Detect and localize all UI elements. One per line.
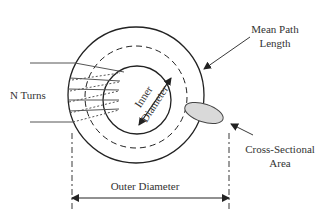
cross-section-label-1: Cross-Sectional [245, 143, 315, 155]
outer-diameter-label: Outer Diameter [111, 180, 180, 192]
cross-section-pointer [231, 124, 253, 135]
mean-path-label-2: Length [259, 37, 291, 49]
mean-path-pointer [204, 37, 250, 69]
cross-section-label-2: Area [269, 157, 290, 169]
toroid-diagram: Inner Diameter Mean Path Length Cross-Se… [0, 0, 324, 220]
n-turns-label: N Turns [10, 89, 46, 101]
mean-path-label-1: Mean Path [251, 23, 299, 35]
toroid-outer-edge [68, 27, 204, 163]
